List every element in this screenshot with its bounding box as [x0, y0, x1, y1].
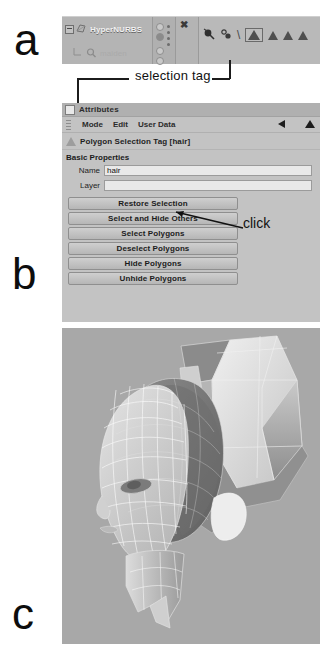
object-header-label: Polygon Selection Tag [hair] — [80, 137, 190, 146]
object-row-hypernurbs[interactable]: HyperNURBS — [62, 17, 152, 41]
layer-input[interactable] — [104, 180, 312, 191]
polygon-selection-tag-icon — [66, 137, 76, 146]
click-arrow — [168, 206, 248, 232]
arrow-up-icon[interactable] — [305, 120, 315, 128]
object-manager-panel: HyperNURBS maiden ✖ — [62, 16, 320, 64]
leader-line-attr-horizontal — [77, 78, 129, 80]
visibility-dots-maiden[interactable] — [156, 45, 164, 67]
name-field-label: Name — [66, 166, 104, 175]
polygon-selection-tag-icon[interactable] — [268, 31, 278, 40]
layer-dot — [167, 31, 170, 34]
material-tag-icon[interactable] — [220, 28, 232, 42]
object-tree-column: HyperNURBS maiden — [62, 17, 153, 64]
object-name-label: HyperNURBS — [90, 25, 142, 34]
object-name-label: maiden — [100, 49, 127, 58]
menu-mode[interactable]: Mode — [82, 120, 103, 129]
viewport-panel[interactable] — [62, 328, 320, 644]
polygon-object-icon — [86, 48, 97, 58]
layer-dots — [166, 22, 171, 49]
close-column: ✖ — [176, 17, 198, 64]
layer-dot — [167, 25, 170, 28]
visibility-dots-hypernurbs[interactable] — [156, 21, 164, 43]
polygon-selection-tag-icon-selected[interactable] — [245, 28, 263, 42]
visibility-dot-editor[interactable] — [156, 23, 164, 31]
figure-label-b: b — [12, 252, 36, 296]
figure-label-c: c — [12, 592, 34, 636]
name-input[interactable]: hair — [104, 165, 312, 176]
backslash-icon[interactable]: / — [237, 29, 240, 41]
polygon-selection-tag-icon[interactable] — [283, 31, 293, 40]
leader-line-tag-horizontal — [212, 78, 230, 80]
tree-branch-icon — [72, 48, 83, 58]
visibility-dot-render[interactable] — [156, 33, 164, 41]
menu-edit[interactable]: Edit — [113, 120, 128, 129]
field-row-name: Name hair — [62, 164, 320, 177]
close-x-icon[interactable]: ✖ — [180, 20, 188, 30]
attributes-object-header: Polygon Selection Tag [hair] — [62, 133, 320, 150]
unhide-polygons-button[interactable]: Unhide Polygons — [68, 272, 238, 285]
arrow-left-icon[interactable] — [278, 120, 285, 128]
leader-line-attr-vertical — [77, 78, 79, 105]
viewport-render — [62, 328, 320, 644]
figure-label-a: a — [14, 18, 38, 62]
field-row-layer: Layer — [62, 179, 320, 192]
panel-grip-icon[interactable] — [66, 120, 71, 130]
visibility-dot-render[interactable] — [156, 57, 164, 65]
section-title-basic-properties: Basic Properties — [62, 150, 320, 164]
visibility-dots-column — [153, 17, 176, 64]
object-row-maiden[interactable]: maiden — [62, 41, 152, 65]
layer-field-label: Layer — [66, 181, 104, 190]
attributes-menubar: Mode Edit User Data — [62, 117, 320, 133]
nav-arrows — [278, 120, 315, 128]
panel-checkbox-icon[interactable] — [65, 105, 75, 115]
hide-polygons-button[interactable]: Hide Polygons — [68, 257, 238, 270]
menu-user-data[interactable]: User Data — [138, 120, 175, 129]
leader-line-tag-vertical — [229, 60, 231, 79]
layer-dot — [167, 43, 170, 46]
tag-column: / — [198, 17, 320, 64]
layer-dot — [167, 37, 170, 40]
panel-title: Attributes — [79, 105, 119, 114]
deselect-polygons-button[interactable]: Deselect Polygons — [68, 242, 238, 255]
collapse-toggle-icon[interactable] — [65, 25, 74, 34]
texture-tag-icon[interactable] — [203, 28, 215, 42]
callout-selection-tag: selection tag — [135, 68, 211, 83]
visibility-dot-editor[interactable] — [156, 47, 164, 55]
attributes-titlebar: Attributes — [62, 103, 320, 117]
hypernurbs-icon — [76, 24, 87, 34]
callout-click: click — [243, 215, 270, 231]
tag-strip: / — [203, 28, 308, 42]
triangle-glyph — [248, 30, 260, 40]
polygon-selection-tag-icon[interactable] — [298, 31, 308, 40]
